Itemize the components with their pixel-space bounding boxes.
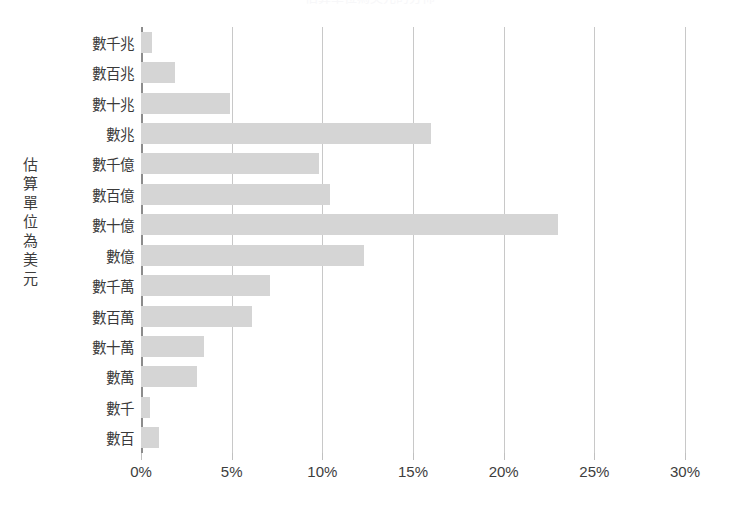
category-label: 數百億 [55, 179, 138, 209]
category-label: 數十萬 [55, 331, 138, 361]
bar-row [141, 118, 685, 148]
plot-area [141, 27, 685, 453]
bar [141, 306, 252, 327]
category-label: 數兆 [55, 118, 138, 148]
category-label: 數百 [55, 422, 138, 452]
category-label: 數十億 [55, 210, 138, 240]
y-axis-category-labels: 數千兆數百兆數十兆數兆數千億數百億數十億數億數千萬數百萬數十萬數萬數千數百 [55, 27, 138, 453]
bar-row [141, 362, 685, 392]
bar [141, 123, 431, 144]
chart-title: 估算單位為美元的分佈 [0, 0, 739, 5]
bar [141, 427, 159, 448]
category-label: 數千兆 [55, 27, 138, 57]
bar-series [141, 27, 685, 453]
bar [141, 336, 204, 357]
bar [141, 93, 230, 114]
category-label: 數十兆 [55, 88, 138, 118]
category-label: 數萬 [55, 362, 138, 392]
x-axis-tick [685, 453, 686, 460]
x-axis-tick-label: 15% [398, 463, 428, 480]
bar [141, 397, 150, 418]
category-label: 數億 [55, 240, 138, 270]
x-axis-tick [322, 453, 323, 460]
x-axis-tick [141, 453, 142, 460]
bar [141, 62, 175, 83]
bar-row [141, 240, 685, 270]
y-axis-title: 估算單位為美元 [18, 155, 42, 288]
bar-row [141, 88, 685, 118]
x-axis-tick [413, 453, 414, 460]
x-axis-tick-label: 25% [579, 463, 609, 480]
bar-row [141, 331, 685, 361]
bar-row [141, 57, 685, 87]
x-axis-tick [504, 453, 505, 460]
x-axis-tick [232, 453, 233, 460]
bar-row [141, 301, 685, 331]
category-label: 數百萬 [55, 301, 138, 331]
bar [141, 214, 558, 235]
x-axis-tick-label: 30% [670, 463, 700, 480]
bar [141, 153, 319, 174]
bar-chart: 估算單位為美元的分佈 估算單位為美元 數千兆數百兆數十兆數兆數千億數百億數十億數… [0, 0, 739, 522]
bar [141, 184, 330, 205]
x-axis-ticks [141, 453, 685, 461]
bar [141, 275, 270, 296]
bar-row [141, 179, 685, 209]
bar-row [141, 422, 685, 452]
category-label: 數千萬 [55, 270, 138, 300]
x-axis-tick-label: 20% [489, 463, 519, 480]
bar-row [141, 270, 685, 300]
x-axis-tick-labels: 0%5%10%15%20%25%30% [141, 463, 685, 487]
bar [141, 245, 364, 266]
x-axis-tick-label: 10% [307, 463, 337, 480]
bar-row [141, 392, 685, 422]
x-axis-tick-label: 0% [130, 463, 152, 480]
x-axis-tick-label: 5% [221, 463, 243, 480]
bar-row [141, 27, 685, 57]
category-label: 數千 [55, 392, 138, 422]
category-label: 數千億 [55, 149, 138, 179]
bar [141, 366, 197, 387]
x-axis-tick [594, 453, 595, 460]
gridline [685, 27, 686, 453]
bar-row [141, 210, 685, 240]
bar-row [141, 149, 685, 179]
bar [141, 32, 152, 53]
category-label: 數百兆 [55, 57, 138, 87]
